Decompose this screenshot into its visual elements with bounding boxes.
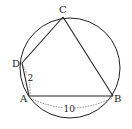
label-d: D [12, 58, 20, 69]
label-ab-length: 10 [64, 104, 76, 114]
segment-bc [63, 17, 113, 96]
label-a: A [19, 93, 28, 104]
label-ad-length: 2 [28, 73, 34, 83]
label-b: B [114, 93, 121, 104]
label-c: C [59, 4, 67, 15]
circumcircle [20, 18, 120, 118]
geometry-diagram: C D A B 2 10 [0, 0, 132, 129]
